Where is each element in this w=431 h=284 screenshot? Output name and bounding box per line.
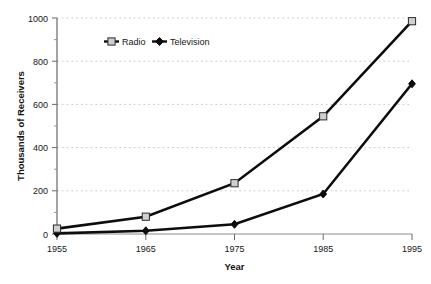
y-tick-label: 600 bbox=[33, 100, 48, 110]
x-axis-ticks bbox=[57, 234, 412, 240]
y-tick-label: 200 bbox=[33, 186, 48, 196]
legend-label-television: Television bbox=[170, 37, 210, 47]
y-tick-label: 400 bbox=[33, 143, 48, 153]
y-tick-label: 1000 bbox=[28, 14, 48, 24]
y-tick-label: 0 bbox=[43, 230, 48, 240]
plot-area-background bbox=[57, 18, 412, 234]
legend-label-radio: Radio bbox=[122, 37, 146, 47]
x-tick-label: 1955 bbox=[47, 244, 67, 254]
x-tick-label: 1985 bbox=[313, 244, 333, 254]
line-chart: 1000 800 600 400 200 0 1955 1965 1975 19… bbox=[0, 0, 431, 284]
legend-marker-radio bbox=[108, 38, 115, 45]
x-tick-label: 1995 bbox=[402, 244, 422, 254]
y-tick-label: 800 bbox=[33, 57, 48, 67]
y-axis-title: Thousands of Receivers bbox=[15, 71, 26, 181]
x-axis-title: Year bbox=[224, 261, 244, 272]
x-axis-tick-labels: 1955 1965 1975 1985 1995 bbox=[47, 244, 422, 254]
y-axis-tick-labels: 1000 800 600 400 200 0 bbox=[28, 14, 48, 240]
x-tick-label: 1965 bbox=[136, 244, 156, 254]
chart-canvas: 1000 800 600 400 200 0 1955 1965 1975 19… bbox=[0, 0, 431, 284]
x-tick-label: 1975 bbox=[224, 244, 244, 254]
